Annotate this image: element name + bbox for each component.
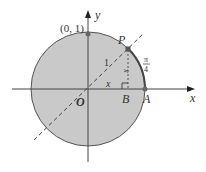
origin-label: O [76, 95, 85, 109]
point-a [143, 87, 148, 92]
y-axis-label: y [94, 8, 101, 22]
unit-circle-diagram: y x (0, 1) O P B A 1 x x π 4 [0, 0, 206, 172]
x-axis-label: x [189, 91, 196, 105]
top-point-label: (0, 1) [60, 22, 84, 35]
point-top [86, 32, 91, 37]
point-p [126, 47, 131, 52]
point-a-label: A [142, 92, 151, 106]
point-b-label: B [122, 92, 130, 106]
radius-label: 1 [104, 57, 109, 68]
diagram-svg: y x (0, 1) O P B A 1 x x π 4 [0, 0, 206, 172]
vertical-leg-label: x [120, 69, 130, 74]
angle-numerator: π [144, 55, 148, 64]
horizontal-leg-label: x [105, 78, 111, 89]
y-axis-arrow-icon [85, 10, 91, 18]
angle-denominator: 4 [144, 65, 148, 74]
point-p-label: P [117, 33, 126, 47]
